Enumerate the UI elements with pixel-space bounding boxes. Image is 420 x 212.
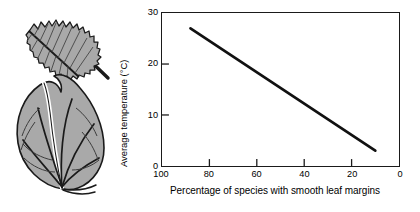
toothed-leaf-icon — [26, 20, 108, 80]
y-tick-marks — [162, 64, 169, 115]
plot-svg — [162, 13, 399, 166]
x-axis-title: Percentage of species with smooth leaf m… — [130, 185, 420, 196]
plot-area — [161, 12, 400, 167]
x-tick-marks — [209, 159, 351, 166]
x-tick-label-60: 60 — [242, 169, 272, 180]
figure-root: Average temperature (°C) 30 20 10 0 — [0, 0, 420, 212]
smooth-leaf-icon — [17, 75, 104, 194]
y-tick-label-group: 30 20 10 0 — [136, 0, 158, 212]
x-tick-label-20: 20 — [337, 169, 367, 180]
smooth-leaf-stalk-b — [63, 190, 95, 194]
chart-panel: Average temperature (°C) 30 20 10 0 — [130, 0, 420, 212]
x-tick-label-80: 80 — [194, 169, 224, 180]
data-line-leaf-margin-temperature — [190, 28, 375, 150]
y-tick-label-30: 30 — [138, 8, 158, 17]
x-tick-label-40: 40 — [289, 169, 319, 180]
y-axis-title: Average temperature (°C) — [117, 60, 130, 167]
y-tick-label-20: 20 — [138, 59, 158, 68]
y-tick-label-10: 10 — [138, 111, 158, 120]
x-tick-label-0: 0 — [385, 169, 415, 180]
toothed-leaf-blade — [26, 20, 101, 80]
x-tick-label-100: 100 — [146, 169, 176, 180]
